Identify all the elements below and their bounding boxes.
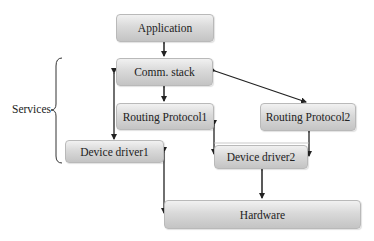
- edge-commstack-routing2: [215, 71, 306, 102]
- node-device-driver2: Device driver2: [214, 145, 308, 169]
- node-routing-protocol1: Routing Protocol1: [116, 103, 214, 130]
- node-device-driver1: Device driver1: [65, 140, 164, 163]
- node-hardware: Hardware: [164, 200, 361, 229]
- node-comm-stack: Comm. stack: [116, 58, 213, 86]
- node-routing-protocol2: Routing Protocol2: [260, 103, 356, 131]
- services-brace: [51, 58, 62, 163]
- node-application: Application: [116, 14, 214, 42]
- services-label: Services: [12, 103, 51, 115]
